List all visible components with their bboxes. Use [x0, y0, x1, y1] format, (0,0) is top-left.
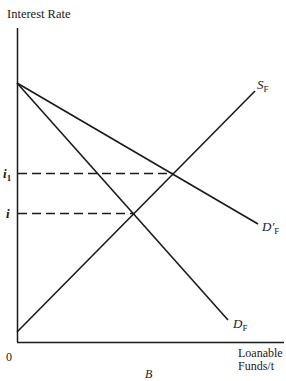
- origin-label: 0: [6, 350, 12, 364]
- demand-curve: [17, 83, 228, 320]
- x-axis-label-line1: Loanable: [238, 346, 283, 360]
- supply-curve-label: SF: [257, 77, 269, 94]
- demand-shifted-curve-label: D′F: [261, 219, 279, 236]
- panel-label: B: [145, 367, 153, 381]
- y-axis-label: Interest Rate: [7, 7, 71, 21]
- i1-label: i1: [3, 166, 12, 183]
- i-label: i: [6, 206, 10, 221]
- x-axis-label-line2: Funds/t: [238, 359, 275, 373]
- demand-shifted-curve: [17, 83, 258, 224]
- demand-curve-label: DF: [232, 316, 247, 333]
- loanable-funds-diagram: Interest Rate 0 i1 i SF D′F DF Loanable …: [0, 0, 286, 381]
- supply-curve: [17, 91, 255, 332]
